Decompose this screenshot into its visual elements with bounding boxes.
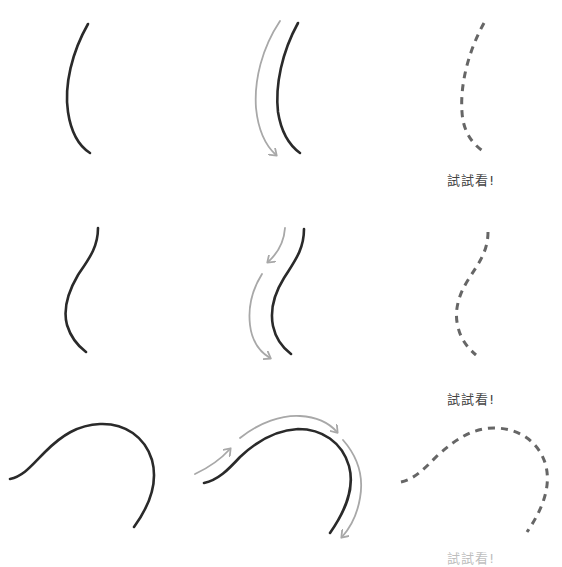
example-stroke-s-curve bbox=[66, 228, 98, 352]
direction-arrow-s-curve-2 bbox=[250, 274, 271, 358]
try-it-label-3: 試試看! bbox=[447, 548, 495, 567]
direction-arrow-arc-1 bbox=[195, 449, 230, 474]
example-stroke-s-curve-copy bbox=[272, 229, 304, 354]
example-stroke-arc-copy bbox=[204, 429, 351, 533]
direction-arrow-c-curve bbox=[256, 21, 280, 155]
example-stroke-c-curve-copy bbox=[277, 23, 300, 153]
try-it-label-2: 試試看! bbox=[447, 389, 495, 408]
trace-practice-c-curve bbox=[462, 23, 486, 153]
try-it-label-1: 試試看! bbox=[447, 170, 495, 189]
row-2 bbox=[66, 228, 488, 358]
trace-practice-s-curve bbox=[456, 232, 488, 355]
trace-practice-arc bbox=[401, 428, 547, 532]
example-stroke-c-curve bbox=[67, 24, 90, 153]
row-1 bbox=[67, 21, 486, 155]
row-3 bbox=[10, 416, 547, 537]
direction-arrow-s-curve-1 bbox=[268, 228, 285, 262]
example-stroke-arc bbox=[10, 424, 154, 527]
